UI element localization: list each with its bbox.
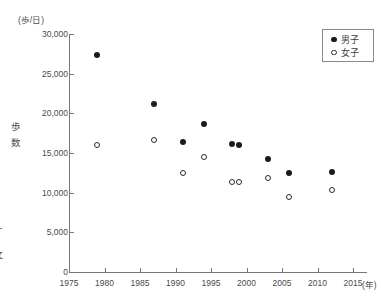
x-tick-label: 2010 [305,278,331,288]
y-tick-label: 5,000 [18,227,68,237]
y-tick-label: 15,000 [18,148,68,158]
data-point-boys [286,170,292,176]
data-point-girls [94,142,100,148]
y-tick-label: 10,000 [18,188,68,198]
x-tick-label: 1980 [92,278,118,288]
data-point-boys [236,142,242,148]
y-tick-label: 25,000 [18,69,68,79]
y-tick-label: 0 [18,267,68,277]
data-point-boys [329,169,335,175]
x-tick-label: 2015 [340,278,366,288]
data-point-boys [151,101,157,107]
x-tick-label: 1975 [56,278,82,288]
y-tick [70,34,74,35]
y-tick [70,113,74,114]
x-tick [140,268,141,272]
chart-figure: (歩/日) 歩数 (年) 男子 女子 ー ● 攵 05,00010,00015,… [0,0,381,301]
data-point-girls [236,179,242,185]
y-tick-label: 20,000 [18,108,68,118]
x-tick [211,268,212,272]
x-tick-label: 1985 [127,278,153,288]
y-tick-label: 30,000 [18,29,68,39]
y-tick [70,232,74,233]
x-tick [176,268,177,272]
y-tick [70,153,74,154]
data-point-girls [265,175,271,181]
data-point-girls [329,187,335,193]
data-point-boys [180,139,186,145]
x-axis-line [69,272,367,273]
x-tick [318,268,319,272]
x-tick-label: 2000 [234,278,260,288]
x-tick [247,268,248,272]
data-point-girls [286,194,292,200]
x-tick [353,268,354,272]
data-point-girls [229,179,235,185]
data-point-boys [94,52,100,58]
data-point-girls [151,137,157,143]
data-point-girls [180,170,186,176]
data-point-boys [265,156,271,162]
data-point-girls [201,154,207,160]
x-tick [282,268,283,272]
x-tick-label: 2005 [269,278,295,288]
x-tick-label: 1990 [163,278,189,288]
y-tick [70,74,74,75]
x-tick [105,268,106,272]
x-tick-label: 1995 [198,278,224,288]
data-point-boys [229,141,235,147]
y-tick [70,193,74,194]
plot-area: 05,00010,00015,00020,00025,00030,0001975… [0,0,381,301]
data-point-boys [201,121,207,127]
